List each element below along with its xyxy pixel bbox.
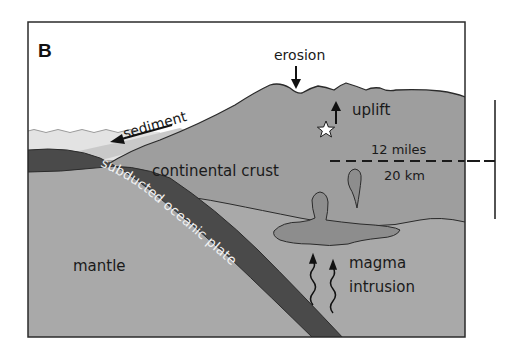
panel-label: B — [38, 40, 52, 61]
uplift-label: uplift — [352, 101, 390, 119]
intrusion-label: intrusion — [349, 278, 415, 296]
continental-crust-label: continental crust — [152, 162, 279, 180]
depth-miles-label: 12 miles — [371, 142, 427, 157]
magma-label: magma — [349, 254, 406, 272]
subduction-cross-section-diagram: B erosion uplift 12 miles 20 km sediment… — [0, 0, 507, 362]
depth-km-label: 20 km — [384, 168, 425, 183]
erosion-label: erosion — [274, 47, 325, 63]
mantle-label: mantle — [73, 257, 126, 275]
